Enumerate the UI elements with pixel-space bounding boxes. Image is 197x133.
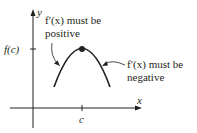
x-axis-label: x bbox=[136, 94, 142, 106]
y-axis-label: y bbox=[36, 6, 42, 18]
positive-pointer-arrow bbox=[52, 43, 58, 64]
calculus-diagram: y x c f(c) f′(x) must be positive f′(x) … bbox=[0, 0, 197, 133]
maximum-point bbox=[79, 46, 85, 52]
negative-pointer-arrow bbox=[105, 62, 125, 65]
annotation-positive-line1: f′(x) must be bbox=[45, 14, 101, 27]
x-axis-arrow-icon bbox=[135, 106, 142, 111]
annotation-negative-line1: f′(x) must be bbox=[127, 58, 183, 71]
negative-pointer-arrowhead-icon bbox=[102, 61, 108, 66]
function-curve bbox=[54, 49, 110, 88]
positive-pointer-arrowhead-icon bbox=[54, 61, 60, 67]
c-tick-label: c bbox=[79, 113, 84, 125]
annotation-negative-line2: negative bbox=[127, 71, 164, 83]
y-axis-arrow-icon bbox=[31, 9, 36, 16]
fc-tick-label: f(c) bbox=[4, 43, 20, 56]
annotation-positive-line2: positive bbox=[45, 27, 80, 39]
